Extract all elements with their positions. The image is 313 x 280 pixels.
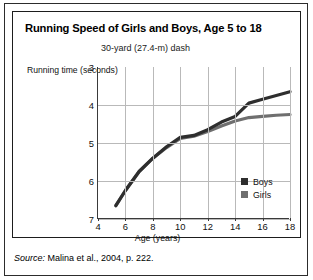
x-axis-tick-label: 10	[175, 221, 185, 232]
page-title: Running Speed of Girls and Boys, Age 5 t…	[25, 22, 262, 34]
chart-subtitle: 30-yard (27.4-m) dash	[101, 43, 190, 53]
y-axis-tick-label: 7	[89, 214, 94, 225]
y-gridline	[98, 105, 290, 106]
y-gridline	[98, 143, 290, 144]
plot-area: Boys Girls 345674681012141618	[97, 67, 289, 219]
source-note: Source: Malina et al., 2004, p. 222.	[14, 253, 154, 263]
source-divider	[12, 246, 301, 247]
x-gridline	[125, 67, 126, 219]
x-axis-tick-label: 8	[150, 221, 155, 232]
legend-item-girls: Girls	[241, 188, 273, 201]
x-gridline	[180, 67, 181, 219]
legend-swatch-boys-icon	[241, 178, 248, 185]
source-citation: Malina et al., 2004, p. 222.	[45, 253, 154, 263]
x-axis-tick-label: 4	[95, 221, 100, 232]
y-axis-tick-label: 5	[89, 138, 94, 149]
x-gridline	[208, 67, 209, 219]
y-axis-tick-label: 3	[89, 62, 94, 73]
legend-item-boys: Boys	[241, 175, 273, 188]
chart-panel: Running Speed of Girls and Boys, Age 5 t…	[12, 11, 301, 238]
x-gridline	[153, 67, 154, 219]
y-axis-tick-label: 4	[89, 100, 94, 111]
x-axis-label: Age (years)	[13, 233, 302, 243]
legend-label-boys: Boys	[253, 177, 273, 187]
x-axis-tick-label: 12	[202, 221, 212, 232]
chart-legend: Boys Girls	[241, 175, 273, 201]
source-label: Source:	[14, 253, 45, 263]
x-axis-tick-label: 18	[285, 221, 295, 232]
x-axis-tick-label: 16	[257, 221, 267, 232]
y-gridline	[98, 219, 290, 220]
legend-label-girls: Girls	[253, 190, 271, 200]
legend-swatch-girls-icon	[241, 191, 248, 198]
x-gridline	[290, 67, 291, 219]
x-gridline	[235, 67, 236, 219]
x-axis-tick-label: 14	[230, 221, 240, 232]
y-axis-tick-label: 6	[89, 176, 94, 187]
figure-container: Running Speed of Girls and Boys, Age 5 t…	[0, 0, 313, 280]
x-axis-tick-label: 6	[123, 221, 128, 232]
